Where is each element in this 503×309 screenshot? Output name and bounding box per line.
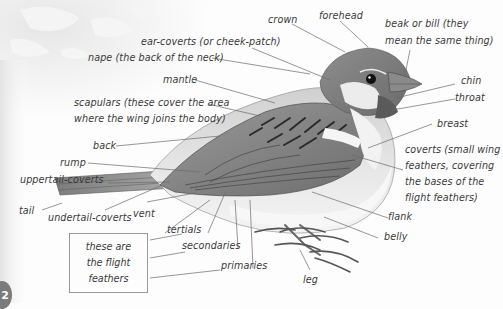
label-rump: rump bbox=[60, 155, 86, 171]
label-coverts-line4: flight feathers) bbox=[405, 190, 478, 206]
label-forehead: forehead bbox=[319, 8, 363, 24]
label-scapulars-line2: where the wing joins the body) bbox=[74, 111, 226, 127]
label-beak-line1: beak or bill (they bbox=[385, 16, 468, 32]
label-beak-line2: mean the same thing) bbox=[385, 33, 494, 49]
label-mantle: mantle bbox=[163, 72, 197, 88]
label-uppertail-coverts: uppertail-coverts bbox=[20, 172, 104, 188]
label-nape: nape (the back of the neck) bbox=[88, 50, 224, 66]
label-coverts-line3: the bases of the bbox=[405, 174, 484, 190]
label-coverts-line1: coverts (small wing bbox=[405, 142, 500, 158]
label-throat: throat bbox=[455, 90, 485, 106]
label-flank: flank bbox=[388, 209, 412, 225]
label-back: back bbox=[93, 138, 116, 154]
label-chin: chin bbox=[461, 73, 482, 89]
label-breast: breast bbox=[437, 116, 468, 132]
label-coverts-line2: feathers, covering bbox=[405, 158, 494, 174]
label-secondaries: secondaries bbox=[182, 238, 241, 254]
label-belly: belly bbox=[384, 229, 408, 245]
label-undertail-coverts: undertail-coverts bbox=[48, 210, 132, 226]
flight-box-line2: the flight bbox=[87, 255, 131, 271]
flight-feathers-callout: these are the flight feathers bbox=[69, 233, 148, 293]
label-primaries: primaries bbox=[221, 258, 267, 274]
label-ear-coverts: ear-coverts (or cheek-patch) bbox=[141, 34, 281, 50]
label-tertials: tertials bbox=[167, 222, 201, 238]
label-leg: leg bbox=[303, 272, 318, 288]
flight-box-line3: feathers bbox=[89, 271, 129, 287]
label-crown: crown bbox=[268, 12, 298, 28]
label-tail: tail bbox=[19, 203, 34, 219]
label-scapulars-line1: scapulars (these cover the area bbox=[74, 95, 230, 111]
flight-box-line1: these are bbox=[86, 239, 131, 255]
label-vent: vent bbox=[133, 206, 155, 222]
bird-eye bbox=[366, 74, 376, 84]
